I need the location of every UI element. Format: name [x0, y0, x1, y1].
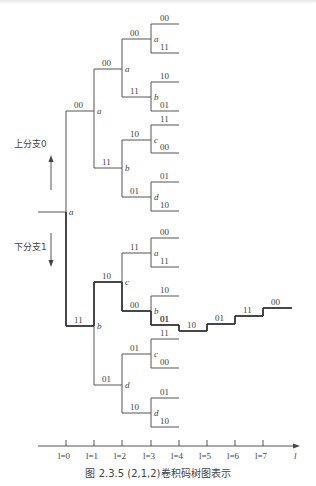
level3-state-label: d: [154, 192, 159, 202]
leaf-branch-output: 10: [160, 71, 170, 81]
leaf-branch-output: 00: [160, 13, 170, 23]
level2-state-label: d: [125, 380, 130, 390]
level1-branch-output: 11: [74, 315, 83, 325]
axis-tick-label: l=0: [58, 451, 71, 461]
level2-branch-output: 11: [102, 157, 111, 167]
level3-state-label: d: [154, 408, 159, 418]
level3-state-label: a: [154, 34, 159, 44]
axis-end-label: l: [294, 451, 297, 461]
level2-branch-output: 01: [102, 374, 111, 384]
level1-branch-output: 00: [74, 100, 84, 110]
tree-labels: a00a11b00a11b10c01d00a001111b100110c1100…: [69, 13, 281, 426]
down-arrow-icon: [49, 233, 54, 267]
upper-branch-label: 上分支0: [14, 138, 47, 149]
leaf-branch-output: 11: [160, 114, 169, 124]
level3-branch-output: 00: [130, 300, 140, 310]
level3-branch-output: 00: [130, 28, 140, 38]
level3-state-label: b: [154, 92, 159, 102]
figure-caption: 图 2.3.5 (2,1,2)卷积码树图表示: [0, 465, 316, 480]
highlight-path-output: 01: [215, 313, 224, 323]
highlight-path-output: 00: [271, 297, 281, 307]
level3-branch-output: 10: [130, 129, 140, 139]
leaf-branch-output: 11: [160, 256, 169, 266]
level2-state-label: b: [125, 163, 130, 173]
leaf-branch-output: 10: [160, 416, 170, 426]
level3-state-label: c: [154, 349, 158, 359]
level3-state-label: a: [154, 248, 159, 258]
level2-state-label: a: [125, 64, 130, 74]
axis-tick-label: l=6: [227, 451, 240, 461]
axis-arrow-icon: [293, 444, 300, 449]
level2-branch-output: 00: [102, 58, 112, 68]
axis-tick-label: l=7: [255, 451, 268, 461]
level3-state-label: b: [154, 306, 159, 316]
level3-branch-output: 11: [130, 86, 139, 96]
leaf-branch-output: 01: [160, 171, 169, 181]
level3-branch-output: 11: [130, 242, 139, 252]
highlight-path-output: 10: [187, 320, 197, 330]
level3-branch-output: 10: [130, 402, 140, 412]
axis-tick-label: l=3: [143, 451, 156, 461]
leaf-branch-output: 01: [160, 100, 169, 110]
leaf-branch-output: 00: [160, 227, 170, 237]
up-arrow-icon: [49, 155, 54, 190]
level1-state-label: a: [97, 106, 102, 116]
level2-state-label: c: [125, 277, 129, 287]
lower-branch-label: 下分支1: [14, 241, 47, 252]
time-axis: l=0l=1l=2l=3l=4l=5l=6l=7l: [38, 440, 300, 461]
leaf-branch-output: 10: [160, 200, 170, 210]
leaf-branch-output: 01: [160, 387, 169, 397]
leaf-branch-output: 10: [160, 285, 170, 295]
root-state-label: a: [69, 207, 74, 217]
leaf-branch-output: 11: [160, 42, 169, 52]
level3-branch-output: 01: [130, 343, 139, 353]
highlight-path-output: 01: [160, 314, 169, 324]
axis-tick-label: l=2: [114, 451, 126, 461]
leaf-branch-output: 00: [160, 357, 170, 367]
level3-branch-output: 01: [130, 186, 139, 196]
level3-state-label: c: [154, 135, 158, 145]
level1-state-label: b: [97, 321, 102, 331]
axis-tick-label: l=4: [171, 451, 184, 461]
leaf-branch-output: 00: [160, 142, 170, 152]
level2-branch-output: 10: [102, 271, 112, 281]
code-tree-diagram: a00a11b00a11b10c01d00a001111b100110c1100…: [0, 0, 316, 486]
axis-tick-label: l=1: [86, 451, 98, 461]
highlight-path-output: 11: [243, 305, 252, 315]
leaf-branch-output: 11: [160, 328, 169, 338]
axis-tick-label: l=5: [199, 451, 212, 461]
